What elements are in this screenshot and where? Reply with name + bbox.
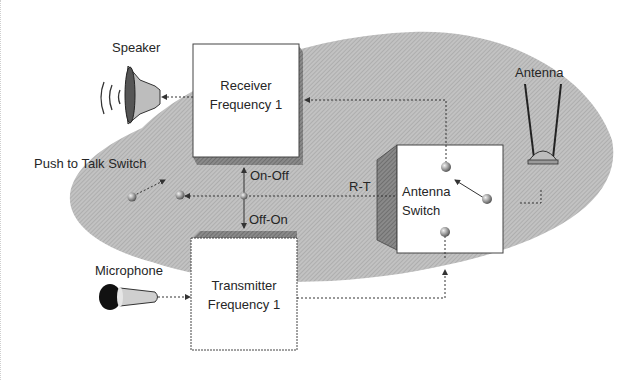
- on-off-label: On-Off: [250, 169, 289, 182]
- microphone-label: Microphone: [95, 264, 163, 277]
- push-to-talk-label: Push to Talk Switch: [34, 157, 146, 170]
- speaker-icon: [101, 66, 160, 124]
- r-t-label: R-T: [349, 180, 371, 193]
- antenna-switch-line1: Antenna: [402, 183, 462, 202]
- antenna-switch-block: Antenna Switch: [402, 183, 462, 221]
- receiver-line2: Frequency 1: [193, 96, 299, 115]
- off-on-label: Off-On: [249, 213, 288, 226]
- antenna-switch-line2: Switch: [402, 202, 462, 221]
- transmitter-line1: Transmitter: [191, 277, 297, 296]
- receiver-line1: Receiver: [193, 77, 299, 96]
- microphone-icon: [99, 284, 158, 310]
- transmitter-block: Transmitter Frequency 1: [191, 277, 297, 315]
- transmitter-line2: Frequency 1: [191, 296, 297, 315]
- antenna-label: Antenna: [515, 66, 563, 79]
- diagram-canvas: Speaker Antenna Push to Talk Switch Micr…: [0, 0, 625, 380]
- speaker-label: Speaker: [112, 41, 160, 54]
- receiver-block: Receiver Frequency 1: [193, 77, 299, 115]
